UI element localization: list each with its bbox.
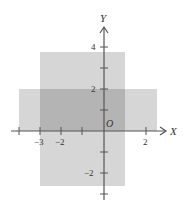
x-tick-label-2: 2 (143, 137, 148, 147)
y-tick-label-2: 2 (91, 84, 96, 94)
origin-label: O (106, 118, 113, 129)
x-tick-label-neg2: −2 (55, 137, 65, 147)
y-axis-label: Y (100, 12, 108, 24)
x-axis-label: X (169, 125, 178, 137)
y-tick-label-4: 4 (91, 42, 96, 52)
y-tick-label-neg2: −2 (84, 168, 94, 178)
x-tick-label-neg3: −3 (34, 137, 44, 147)
coordinate-diagram: Y X O −3 −2 2 4 2 −2 (0, 0, 190, 208)
